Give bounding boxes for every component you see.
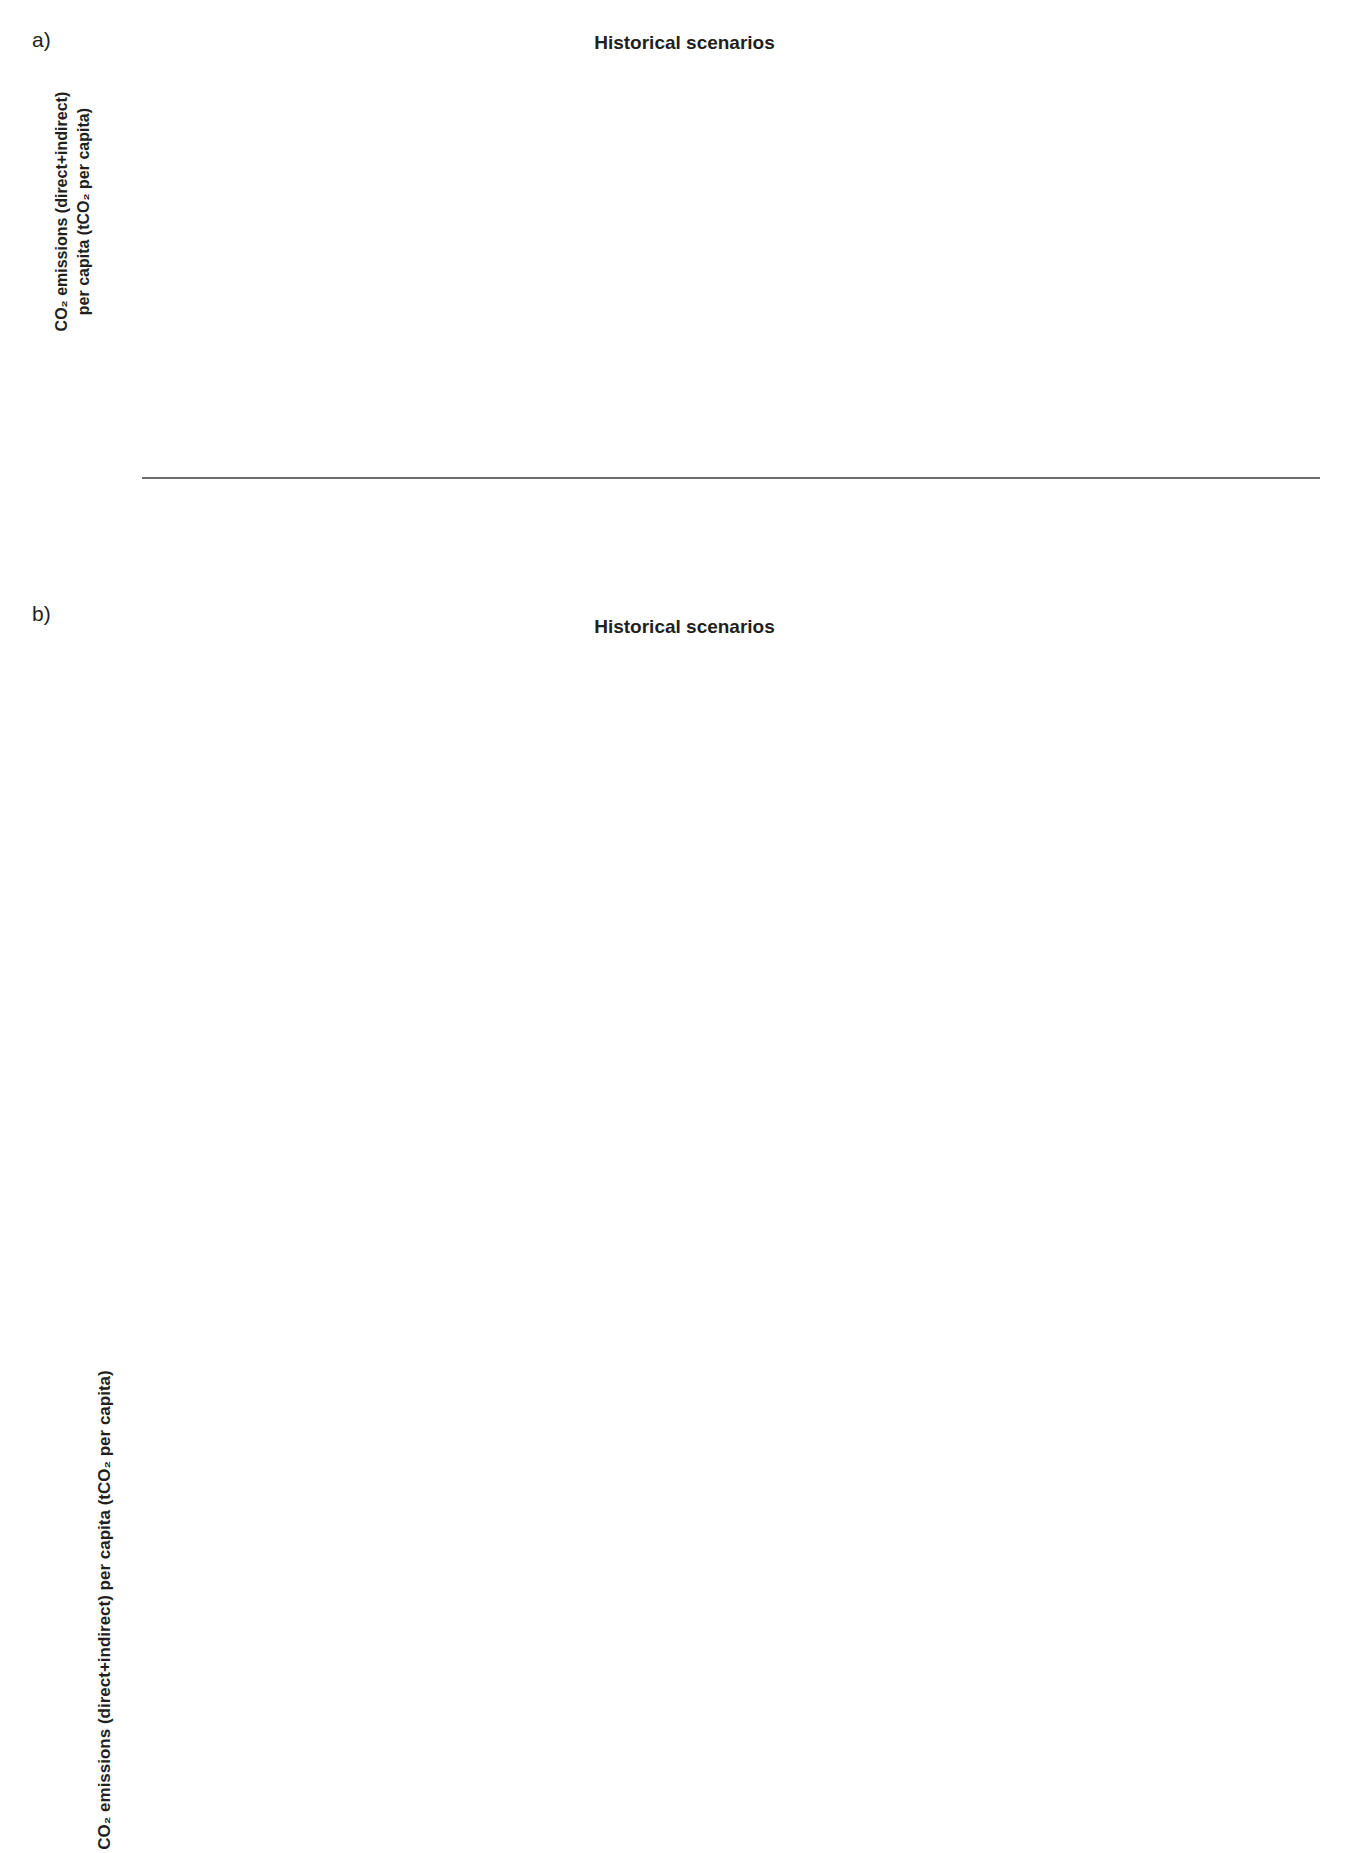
panel-a-ylabel: CO₂ emissions (direct+indirect) per capi… [51, 47, 94, 377]
panel-a: a) Historical scenarios CO₂ emissions (d… [0, 0, 1369, 600]
panel-b: b) Historical scenarios CO₂ emissions (d… [0, 600, 1369, 1804]
panel-a-x-tick-labels [142, 479, 1320, 553]
panel-b-title: Historical scenarios [0, 616, 1369, 638]
panel-a-plot-area [142, 65, 1320, 477]
panel-a-ylabel-line2: per capita (tCO₂ per capita) [73, 47, 95, 377]
panel-a-group-labels [142, 553, 1320, 600]
panel-a-ylabel-line1: CO₂ emissions (direct+indirect) [51, 47, 73, 377]
chart-legend [0, 1640, 1369, 1804]
panel-a-title: Historical scenarios [0, 32, 1369, 54]
